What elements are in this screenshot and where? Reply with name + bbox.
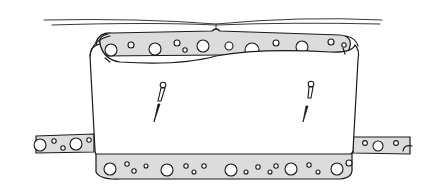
- left-foam-extension: [34, 134, 94, 153]
- right-foam-extension: [353, 137, 412, 154]
- sketch-illustration: [0, 0, 439, 195]
- sketch-canvas: [0, 0, 439, 195]
